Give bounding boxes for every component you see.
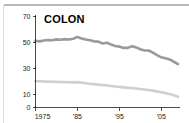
series-line-mortality-light bbox=[36, 81, 179, 97]
axes-group bbox=[33, 15, 181, 111]
x-tick-label: '95 bbox=[115, 113, 124, 120]
y-tick-label-group: 010305070 bbox=[23, 13, 31, 112]
y-tick-group bbox=[33, 16, 36, 108]
y-tick-label: 0 bbox=[27, 104, 31, 111]
colon-cancer-rate-chart: 010305070 1975'85'95'05 COLON bbox=[0, 0, 189, 123]
x-tick-label: 1975 bbox=[35, 113, 51, 120]
x-tick-label-group: 1975'85'95'05 bbox=[35, 113, 166, 120]
chart-title: COLON bbox=[44, 13, 85, 25]
x-tick-group bbox=[36, 108, 162, 111]
x-tick-label: '85 bbox=[73, 113, 82, 120]
series-group bbox=[36, 37, 179, 97]
series-line-incidence-dark bbox=[36, 37, 179, 64]
y-tick-label: 30 bbox=[23, 65, 31, 72]
y-tick-label: 70 bbox=[23, 13, 31, 20]
chart-canvas: 010305070 1975'85'95'05 COLON bbox=[0, 0, 189, 123]
y-tick-label: 50 bbox=[23, 39, 31, 46]
x-tick-label: '05 bbox=[157, 113, 166, 120]
y-tick-label: 10 bbox=[23, 91, 31, 98]
